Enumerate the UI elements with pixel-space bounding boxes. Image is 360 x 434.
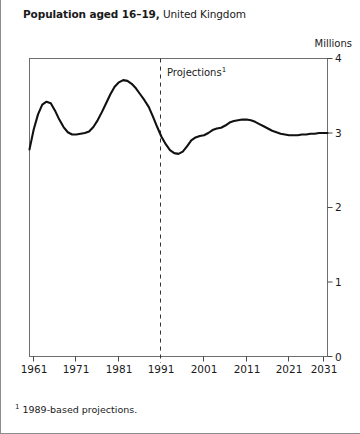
chart-svg	[1, 0, 360, 434]
y-axis-ticks	[328, 59, 333, 357]
x-tick-label-2031: 2031	[311, 364, 338, 375]
y-tick-label-0: 0	[335, 352, 342, 363]
projections-annotation-text: Projections	[167, 67, 222, 78]
x-axis-ticks	[34, 357, 324, 362]
y-tick-label-3: 3	[335, 128, 342, 139]
x-tick-label-1971: 1971	[63, 364, 90, 375]
y-tick-label-4: 4	[335, 53, 342, 64]
y-tick-label-2: 2	[335, 202, 342, 213]
chart-figure: Population aged 16–19, United Kingdom Mi…	[0, 0, 360, 434]
projections-annotation-marker: 1	[222, 66, 226, 74]
x-tick-label-1991: 1991	[148, 364, 175, 375]
x-tick-label-2021: 2021	[276, 364, 303, 375]
projections-annotation: Projections1	[167, 67, 226, 79]
plot-area: 4 3 2 1 0 1961 1971 1981 1991 2001 2011 …	[1, 0, 360, 434]
footnote-text: 1989-based projections.	[19, 404, 137, 415]
population-line-series	[30, 80, 328, 154]
x-tick-label-2001: 2001	[191, 364, 218, 375]
y-tick-label-1: 1	[335, 277, 342, 288]
x-tick-label-2011: 2011	[234, 364, 261, 375]
chart-footnote: 1 1989-based projections.	[15, 404, 137, 416]
x-tick-label-1981: 1981	[106, 364, 133, 375]
plot-frame	[30, 59, 328, 357]
x-tick-label-1961: 1961	[21, 364, 48, 375]
